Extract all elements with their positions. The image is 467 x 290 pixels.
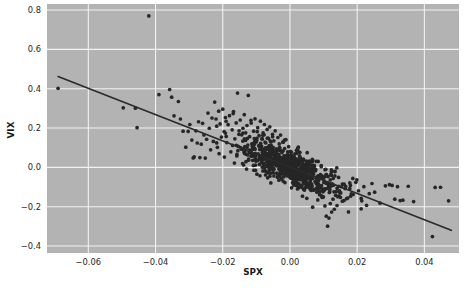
data-point [277, 142, 281, 146]
data-point [234, 121, 238, 125]
y-tick-label: 0.6 [28, 44, 41, 54]
data-point [271, 151, 275, 155]
data-point [289, 150, 293, 154]
data-point [305, 151, 309, 155]
data-point [302, 181, 306, 185]
data-point [217, 152, 221, 156]
data-point [217, 109, 221, 113]
data-point [310, 171, 314, 175]
data-point [252, 142, 256, 146]
data-point [298, 160, 302, 164]
data-point [360, 199, 364, 203]
data-point [393, 197, 397, 201]
data-point [246, 94, 250, 98]
data-point [265, 128, 269, 132]
data-point [401, 198, 405, 202]
data-point [172, 114, 176, 118]
data-point [244, 131, 248, 135]
data-point [233, 137, 237, 141]
data-point [294, 178, 298, 182]
data-point [281, 149, 285, 153]
data-point [337, 176, 341, 180]
data-point [237, 129, 241, 133]
data-point [320, 187, 324, 191]
data-point [218, 122, 222, 126]
data-point [197, 120, 201, 124]
data-point [278, 147, 282, 151]
data-point [216, 145, 220, 149]
data-point [56, 86, 60, 90]
data-point [324, 173, 328, 177]
data-point [181, 129, 185, 133]
data-point [433, 186, 437, 190]
data-point [302, 178, 306, 182]
data-point [270, 163, 274, 167]
data-point [329, 168, 333, 172]
data-point [170, 95, 174, 99]
data-point [298, 151, 302, 155]
data-point [271, 135, 275, 139]
data-point [206, 111, 210, 115]
plot-canvas: −0.06−0.04−0.020.000.020.04 0.80.60.40.2… [0, 0, 467, 290]
data-point [269, 181, 273, 185]
data-point [259, 141, 263, 145]
data-point [251, 158, 255, 162]
data-point [331, 177, 335, 181]
data-point [326, 224, 330, 228]
data-point [135, 126, 139, 130]
data-point [268, 125, 272, 129]
data-point [362, 185, 366, 189]
data-point [332, 190, 336, 194]
data-point [303, 174, 307, 178]
data-point [287, 160, 291, 164]
data-point [190, 138, 194, 142]
data-point [351, 177, 355, 181]
data-point [277, 178, 281, 182]
data-point [297, 185, 301, 189]
data-point [263, 140, 267, 144]
data-point [252, 164, 256, 168]
data-point [184, 145, 188, 149]
data-point [296, 146, 300, 150]
data-point [168, 88, 172, 92]
data-point [264, 170, 268, 174]
data-point [301, 194, 305, 198]
data-point [252, 129, 256, 133]
data-point [177, 100, 181, 104]
data-point [275, 147, 279, 151]
data-point [312, 188, 316, 192]
data-point [281, 140, 285, 144]
data-point [332, 207, 336, 211]
data-point [373, 190, 377, 194]
data-point [359, 207, 363, 211]
data-point [342, 199, 346, 203]
data-point [317, 185, 321, 189]
data-point [238, 118, 242, 122]
data-point [224, 131, 228, 135]
data-point [338, 189, 342, 193]
data-point [298, 154, 302, 158]
data-point [245, 167, 249, 171]
data-point [289, 174, 293, 178]
data-point [157, 93, 161, 97]
data-point [231, 112, 235, 116]
data-point [331, 197, 335, 201]
data-point [192, 155, 196, 159]
data-point [335, 204, 339, 208]
data-point [287, 145, 291, 149]
data-point [390, 184, 394, 188]
data-point [316, 189, 320, 193]
data-point [308, 160, 312, 164]
data-point [335, 166, 339, 170]
data-point [275, 154, 279, 158]
data-point [258, 163, 262, 167]
data-point [357, 189, 361, 193]
data-point [244, 160, 248, 164]
data-point [236, 149, 240, 153]
data-point [215, 141, 219, 145]
y-axis-title: VIX [6, 121, 16, 138]
data-point [311, 205, 315, 209]
data-point [340, 182, 344, 186]
data-point [224, 116, 228, 120]
data-point [209, 148, 213, 152]
